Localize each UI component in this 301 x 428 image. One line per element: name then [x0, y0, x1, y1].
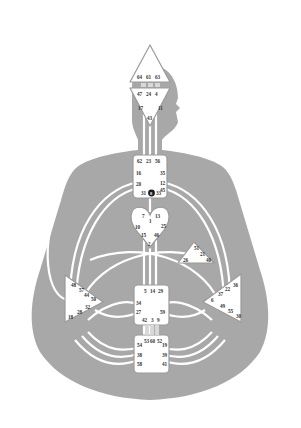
gate-34: 34	[136, 300, 142, 306]
gate-45: 45	[160, 187, 166, 193]
gate-11: 11	[158, 105, 163, 111]
gate-35: 35	[160, 170, 166, 176]
gate-23: 23	[146, 158, 152, 164]
gate-51: 51	[194, 245, 200, 251]
gate-56: 56	[155, 158, 161, 164]
gate-15: 15	[141, 232, 147, 238]
gate-64: 64	[137, 74, 143, 80]
gate-22: 22	[225, 286, 231, 292]
gate-40: 40	[206, 257, 212, 263]
gate-39: 39	[162, 352, 168, 358]
gate-1: 1	[149, 218, 152, 224]
gate-31: 31	[141, 190, 147, 196]
gate-36: 36	[233, 282, 239, 288]
gate-60: 60	[150, 338, 156, 344]
gate-42: 42	[142, 317, 148, 323]
gate-16: 16	[136, 170, 142, 176]
gate-14: 14	[150, 288, 156, 294]
gate-38: 38	[137, 352, 143, 358]
gate-24: 24	[146, 91, 152, 97]
gate-48: 48	[71, 282, 77, 288]
gate-63: 63	[155, 74, 161, 80]
gate-18: 18	[68, 314, 74, 320]
gate-25: 25	[161, 223, 167, 229]
bodygraph-svg: 64 61 63 47 24 4 17 11 43 62 23 56 16 35…	[0, 0, 301, 428]
bodygraph-diagram: 64 61 63 47 24 4 17 11 43 62 23 56 16 35…	[0, 0, 301, 428]
gate-61: 61	[146, 74, 152, 80]
gate-37: 37	[218, 291, 224, 297]
gate-54: 54	[137, 342, 143, 348]
gate-21: 21	[200, 251, 206, 257]
gate-28: 28	[77, 309, 83, 315]
gate-58: 58	[137, 361, 143, 367]
gate-20: 20	[136, 181, 142, 187]
gate-32: 32	[85, 304, 91, 310]
gate-2: 2	[148, 241, 151, 247]
gate-62: 62	[137, 158, 143, 164]
gate-44: 44	[84, 292, 90, 298]
gate-19: 19	[162, 342, 168, 348]
gate-46: 46	[154, 232, 160, 238]
gate-6: 6	[211, 297, 214, 303]
gate-13: 13	[155, 213, 161, 219]
gate-29: 29	[158, 288, 164, 294]
gate-7: 7	[142, 213, 145, 219]
gate-10: 10	[135, 224, 141, 230]
gate-53: 53	[144, 338, 150, 344]
gate-3: 3	[151, 317, 154, 323]
gate-30: 30	[236, 313, 242, 319]
gate-50: 50	[91, 296, 97, 302]
gate-5: 5	[144, 288, 147, 294]
gate-47: 47	[137, 91, 143, 97]
gate-17: 17	[138, 105, 144, 111]
gate-12: 12	[160, 180, 166, 186]
gate-27: 27	[136, 309, 142, 315]
gate-9: 9	[157, 317, 160, 323]
gate-41: 41	[162, 361, 168, 367]
gate-59: 59	[160, 309, 166, 315]
gate-43: 43	[147, 115, 153, 121]
gate-4: 4	[155, 91, 158, 97]
gate-55: 55	[228, 308, 234, 314]
gate-26: 26	[183, 257, 189, 263]
gate-49: 49	[220, 303, 226, 309]
